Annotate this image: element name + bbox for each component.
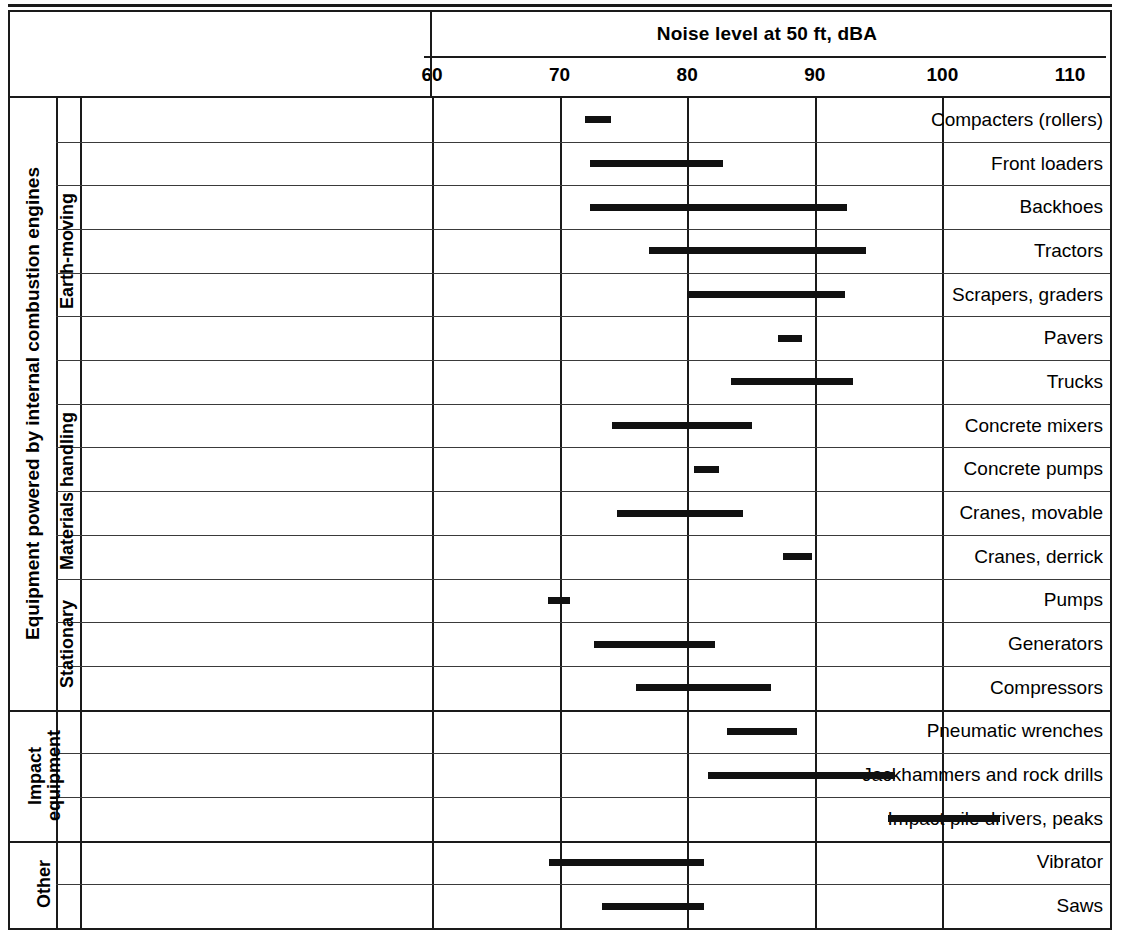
- group-label-text: Materials handling: [58, 412, 77, 570]
- range-bar: [549, 859, 703, 866]
- gridline-70: [560, 98, 562, 928]
- range-bar: [778, 335, 802, 342]
- axis-tick-80: 80: [677, 64, 698, 86]
- range-bar: [585, 116, 611, 123]
- axis-tick-100: 100: [927, 64, 959, 86]
- range-bar: [548, 597, 570, 604]
- row-label: Pavers: [759, 316, 1109, 360]
- row-label: Compacters (rollers): [759, 98, 1109, 142]
- range-bar: [649, 247, 866, 254]
- row-label: Pumps: [759, 579, 1109, 623]
- group-label-materials: Materials handling: [56, 404, 80, 579]
- row-label: Pneumatic wrenches: [759, 710, 1109, 754]
- row-label: Front loaders: [759, 142, 1109, 186]
- row-label: Saws: [759, 884, 1109, 928]
- range-bar: [731, 378, 853, 385]
- range-bar: [590, 204, 846, 211]
- row-label: Vibrator: [759, 841, 1109, 885]
- group-label-other: Other: [10, 841, 80, 928]
- group-label-earth: Earth-moving: [56, 98, 80, 404]
- row-label: Concrete mixers: [759, 404, 1109, 448]
- row-label: Cranes, movable: [759, 491, 1109, 535]
- range-bar: [594, 641, 715, 648]
- chart-body: Compacters (rollers)Front loadersBackhoe…: [10, 98, 1110, 928]
- range-bar: [708, 772, 896, 779]
- group-label-stationary: Stationary: [56, 579, 80, 710]
- group-label-text: Equipment powered by internal combustion…: [23, 167, 44, 640]
- range-bar: [636, 684, 771, 691]
- range-bar: [694, 466, 720, 473]
- range-bar: [687, 291, 845, 298]
- group-label-text: Impact equipment: [26, 730, 65, 821]
- range-bar: [727, 728, 797, 735]
- range-bar: [888, 815, 1000, 822]
- range-bar: [783, 553, 812, 560]
- column-separator-1: [80, 98, 82, 928]
- axis-tick-60: 60: [421, 64, 442, 86]
- chart-title: Noise level at 50 ft, dBA: [424, 12, 1110, 56]
- axis-tick-labels: 60708090100110: [424, 58, 1110, 96]
- header-vertical-separator: [430, 12, 432, 96]
- group-label-text: Stationary: [58, 600, 77, 688]
- column-separator-2: [432, 98, 434, 928]
- group-label-impact: Impact equipment: [10, 710, 80, 841]
- range-bar: [590, 160, 723, 167]
- row-label: Compressors: [759, 666, 1109, 710]
- noise-level-chart-page: Noise level at 50 ft, dBA 60708090100110…: [0, 0, 1126, 938]
- top-rule: [8, 4, 1112, 7]
- axis-tick-110: 110: [1055, 64, 1086, 86]
- group-label-text: Other: [35, 860, 54, 908]
- range-bar: [602, 903, 704, 910]
- row-label: Concrete pumps: [759, 447, 1109, 491]
- range-bar: [612, 422, 752, 429]
- range-bar: [617, 510, 743, 517]
- group-label-main: Equipment powered by internal combustion…: [10, 98, 56, 710]
- group-label-text: Earth-moving: [58, 193, 77, 309]
- axis-tick-90: 90: [804, 64, 825, 86]
- row-label: Generators: [759, 622, 1109, 666]
- axis-tick-70: 70: [549, 64, 570, 86]
